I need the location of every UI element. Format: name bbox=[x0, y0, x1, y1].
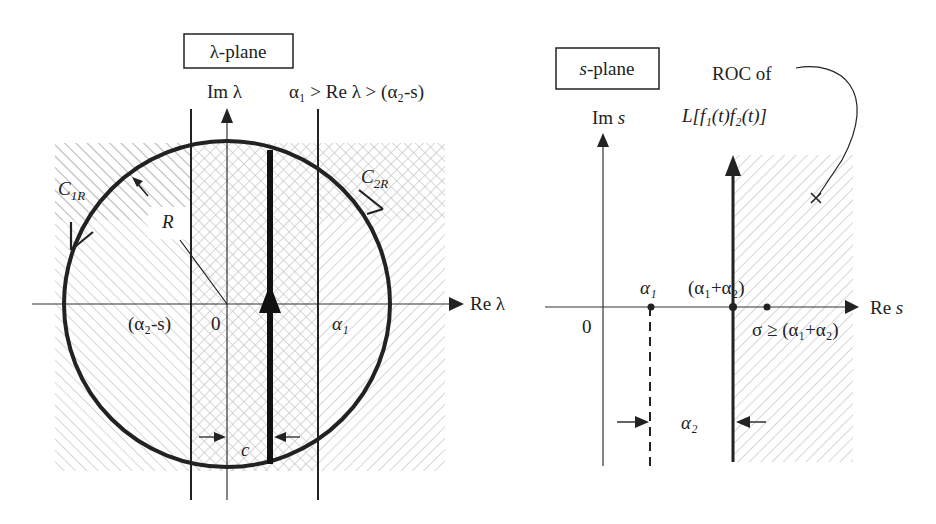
a1a2-point bbox=[729, 303, 737, 311]
im-axis-arrow-icon bbox=[221, 108, 233, 123]
label-a1-s: α₁ bbox=[640, 277, 657, 298]
roc-label-line2: L[f₁(t)f₂(t)] bbox=[681, 105, 767, 127]
a2-dim-left-arrow-icon bbox=[635, 416, 649, 428]
im-s-label: Im s bbox=[592, 107, 625, 128]
lambda-plane: λ-plane R C1R C2R Im λ Re λ α₁ > Re λ > … bbox=[0, 34, 506, 511]
im-lambda-label: Im λ bbox=[207, 81, 243, 102]
label-a2-s: α₂ bbox=[681, 412, 698, 433]
label-a2-minus-s: (α₂-s) bbox=[128, 313, 171, 335]
roc-label-line1: ROC of bbox=[712, 63, 772, 84]
label-a1-plus-a2: (α₁+α₂) bbox=[688, 277, 745, 299]
label-r: R bbox=[161, 211, 174, 232]
roc-hatch-region bbox=[733, 155, 853, 462]
region-condition: α₁ > Re λ > (α₂-s) bbox=[289, 81, 424, 103]
lambda-plane-title: λ-plane bbox=[210, 41, 267, 62]
a1-point bbox=[648, 304, 655, 311]
s-plane-title: s-plane bbox=[580, 58, 635, 79]
label-a1-lambda: α₁ bbox=[332, 313, 349, 334]
label-sigma-condition: σ ≥ (α₁+α₂) bbox=[752, 319, 839, 341]
sigma-point bbox=[764, 304, 771, 311]
s-plane: s-plane s-plane Im s Im s Re s Re s 0 α₁… bbox=[545, 48, 903, 466]
re-lambda-label: Re λ bbox=[470, 293, 506, 314]
laplace-convolution-diagram: λ-plane R C1R C2R Im λ Re λ α₁ > Re λ > … bbox=[0, 0, 936, 524]
label-origin-lambda: 0 bbox=[211, 313, 221, 334]
re-s-label: Re s bbox=[870, 297, 903, 318]
im-s-arrow-icon bbox=[597, 133, 609, 147]
label-origin-s: 0 bbox=[582, 316, 592, 337]
label-c: c bbox=[241, 439, 250, 460]
